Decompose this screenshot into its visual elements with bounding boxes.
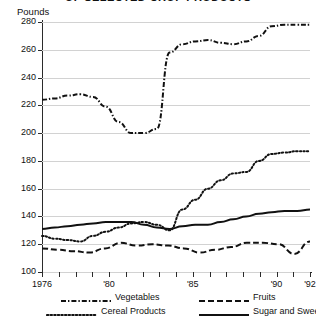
legend-item[interactable]: Cereal Products (46, 306, 166, 316)
legend-key-dash-dot-icon (60, 292, 112, 302)
legend-key-dashed-icon (198, 292, 250, 302)
legend-label: Cereal Products (101, 306, 166, 316)
x-axis-tick (76, 272, 77, 277)
y-axis-tick-label: 140 (6, 210, 36, 220)
x-axis-tick (193, 272, 194, 277)
x-axis-tick-label: 1976 (32, 279, 52, 289)
legend-label: Fruits (253, 292, 276, 302)
x-axis-tick (210, 272, 211, 277)
x-axis-tick-label: '80 (103, 279, 115, 289)
chart-title: OF SELECTED CROP PRODUCTS (0, 0, 316, 3)
x-axis-tick (226, 272, 227, 277)
legend-key-solid-icon (198, 306, 250, 316)
x-axis-tick (59, 272, 60, 277)
plot-area (42, 22, 310, 272)
y-axis-tick-label: 200 (6, 127, 36, 137)
legend-item[interactable]: Sugar and Sweeteners (198, 306, 316, 316)
x-axis-tick (92, 272, 93, 277)
legend-item[interactable]: Vegetables (60, 292, 160, 302)
series-line (42, 25, 310, 133)
x-axis-tick (310, 272, 311, 277)
x-axis-tick (277, 272, 278, 277)
legend-key-dotted-icon (46, 306, 98, 316)
series-line (42, 241, 310, 254)
x-axis-tick-label: '85 (187, 279, 199, 289)
y-axis-tick-label: 160 (6, 183, 36, 193)
chart-legend: VegetablesFruitsCereal ProductsSugar and… (46, 292, 310, 320)
x-axis-tick (243, 272, 244, 277)
x-axis-ticks (42, 272, 310, 278)
x-axis-tick (126, 272, 127, 277)
y-axis-tick-label: 260 (6, 44, 36, 54)
x-axis-tick (159, 272, 160, 277)
legend-label: Sugar and Sweeteners (253, 306, 316, 316)
x-axis-tick (293, 272, 294, 277)
y-axis-tick-label: 240 (6, 72, 36, 82)
x-axis-tick (176, 272, 177, 277)
y-axis-tick-label: 220 (6, 99, 36, 109)
x-axis-tick (143, 272, 144, 277)
y-axis-tick-label: 180 (6, 155, 36, 165)
x-axis-tick-label: '90 (271, 279, 283, 289)
y-axis-tick-label: 100 (6, 266, 36, 276)
x-axis-tick (260, 272, 261, 277)
chart-root: OF SELECTED CROP PRODUCTS Pounds 2802602… (0, 0, 316, 320)
x-axis-tick (109, 272, 110, 277)
legend-label: Vegetables (115, 292, 160, 302)
legend-item[interactable]: Fruits (198, 292, 276, 302)
y-axis-tick-label: 120 (6, 238, 36, 248)
series-lines (42, 22, 310, 272)
x-axis-tick-label: '92 (304, 279, 316, 289)
y-axis-tick-label: 280 (6, 16, 36, 26)
x-axis-tick (42, 272, 43, 277)
